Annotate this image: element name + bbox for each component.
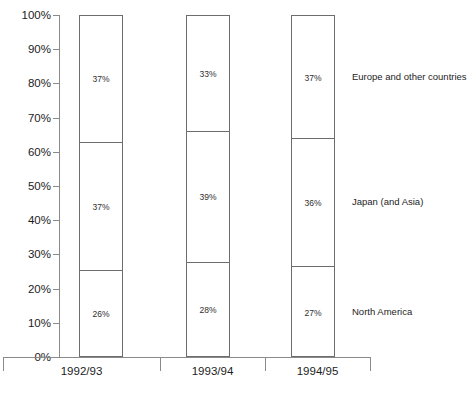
- bar-segment-divider: [292, 266, 334, 267]
- y-axis-tick: [53, 186, 60, 187]
- bar-segment-divider: [187, 131, 229, 132]
- bar-segment-value-label: 28%: [187, 305, 229, 315]
- y-axis-tick-label: 50%: [3, 180, 51, 192]
- bar-segment-value-label: 36%: [292, 198, 334, 208]
- x-axis-line: [3, 357, 371, 358]
- y-axis-tick-label: 100%: [3, 9, 51, 21]
- bar-segment-value-label: 37%: [292, 73, 334, 83]
- bar-segment-value-label: 27%: [292, 308, 334, 318]
- y-axis-tick: [53, 15, 60, 16]
- bar-segment-divider: [80, 270, 122, 271]
- bar-1994-95[interactable]: 27%36%37%: [291, 15, 335, 357]
- x-axis-end-tick: [370, 358, 371, 371]
- y-axis-tick-label: 80%: [3, 77, 51, 89]
- y-axis-tick-label: 40%: [3, 214, 51, 226]
- y-axis-tick-label: 70%: [3, 112, 51, 124]
- bar-segment-divider: [80, 142, 122, 143]
- bar-segment-divider: [292, 138, 334, 139]
- bar-segment-value-label: 39%: [187, 192, 229, 202]
- y-axis-tick-label: 10%: [3, 317, 51, 329]
- y-axis-tick-label: 30%: [3, 248, 51, 260]
- legend-entry-europe-and-other-countries: Europe and other countries: [352, 71, 467, 82]
- bar-segment-value-label: 26%: [80, 309, 122, 319]
- bar-1992-93[interactable]: 26%37%37%: [79, 15, 123, 357]
- x-axis-category-label: 1993/94: [160, 364, 265, 378]
- y-axis-tick: [53, 254, 60, 255]
- y-axis-tick: [53, 152, 60, 153]
- bar-1993-94[interactable]: 28%39%33%: [186, 15, 230, 357]
- x-axis-category-label: 1992/93: [3, 364, 160, 378]
- y-axis-tick: [53, 83, 60, 84]
- y-axis-tick: [53, 49, 60, 50]
- y-axis-tick-label: 90%: [3, 43, 51, 55]
- y-axis-tick: [53, 220, 60, 221]
- bar-segment-divider: [187, 262, 229, 263]
- legend-entry-japan-and-asia: Japan (and Asia): [352, 196, 423, 207]
- y-axis-tick-label: 60%: [3, 146, 51, 158]
- x-axis-category-label: 1994/95: [265, 364, 370, 378]
- bar-segment-value-label: 37%: [80, 74, 122, 84]
- y-axis-tick-label: 20%: [3, 283, 51, 295]
- legend-entry-north-america: North America: [352, 306, 412, 317]
- bar-segment-value-label: 37%: [80, 202, 122, 212]
- y-axis-tick: [53, 323, 60, 324]
- bar-segment-value-label: 33%: [187, 69, 229, 79]
- y-axis-tick: [53, 289, 60, 290]
- stacked-bar-chart: 0%10%20%30%40%50%60%70%80%90%100% 1992/9…: [0, 0, 470, 399]
- y-axis-tick: [53, 118, 60, 119]
